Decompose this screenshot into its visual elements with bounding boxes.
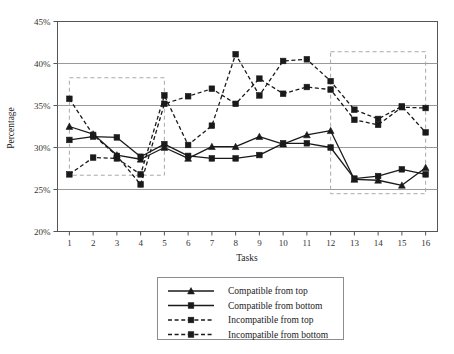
legend-item-label: Compatible from top [228,286,308,296]
x-tick-label-2: 2 [91,238,96,248]
data-point-8 [233,101,239,107]
data-point-11 [304,141,310,147]
data-point-3 [114,156,120,162]
data-point-13 [352,107,358,113]
x-tick-label-7: 7 [210,238,215,248]
data-point-7 [209,156,215,162]
x-tick-label-11: 11 [303,238,312,248]
data-point-4 [138,172,144,178]
chart-legend: Compatible from topCompatible from botto… [158,278,344,340]
data-point-15 [399,104,405,110]
x-axis-title: Tasks [236,253,258,263]
data-point-2 [90,155,96,161]
chart-figure: 20%25%30%35%40%45% 123456789101112131415… [0,0,454,354]
data-point-12 [328,78,334,84]
data-point-15 [399,167,405,173]
x-tick-label-10: 10 [279,238,289,248]
data-point-13 [352,176,358,182]
x-tick-label-3: 3 [115,238,120,248]
y-axis: 20%25%30%35%40%45% [34,17,58,237]
data-point-6 [185,153,191,159]
legend-swatch-marker [188,317,194,323]
legend-swatch-marker [188,303,194,309]
x-tick-label-9: 9 [257,238,262,248]
y-tick-label-45: 45% [34,17,51,27]
data-point-10 [280,141,286,147]
data-point-5 [162,93,168,99]
data-point-16 [423,105,429,111]
percentage-by-task-line-chart: 20%25%30%35%40%45% 123456789101112131415… [0,0,454,354]
x-tick-label-6: 6 [186,238,191,248]
x-tick-label-16: 16 [421,238,431,248]
data-point-5 [162,141,168,147]
data-point-16 [423,172,429,178]
x-tick-label-1: 1 [67,238,72,248]
y-axis-title: Percentage [6,107,16,149]
data-point-9 [257,152,263,158]
x-tick-label-4: 4 [138,238,143,248]
data-point-14 [375,173,381,179]
y-tick-label-35: 35% [34,101,51,111]
data-point-7 [209,123,215,129]
data-point-14 [375,116,381,122]
data-point-13 [352,117,358,123]
x-tick-label-12: 12 [326,238,335,248]
data-point-9 [257,93,263,99]
data-point-11 [304,84,310,90]
x-tick-label-15: 15 [397,238,407,248]
data-point-6 [185,93,191,99]
data-point-6 [185,142,191,148]
data-point-12 [328,145,334,151]
data-point-1 [67,96,73,102]
data-point-4 [138,182,144,188]
data-point-4 [138,154,144,160]
y-tick-label-25: 25% [34,185,51,195]
data-point-10 [280,58,286,64]
data-point-2 [90,132,96,138]
legend-swatch-marker [188,332,194,338]
x-tick-label-5: 5 [162,238,167,248]
legend-item-label: Incompatible from top [228,315,314,325]
x-tick-label-13: 13 [350,238,360,248]
x-tick-label-8: 8 [233,238,238,248]
data-point-1 [67,172,73,178]
data-point-9 [257,76,263,82]
legend-item-label: Incompatible from bottom [228,330,329,340]
data-point-11 [304,57,310,63]
data-point-3 [114,135,120,141]
y-tick-label-40: 40% [34,59,51,69]
y-tick-label-20: 20% [34,227,51,237]
x-tick-label-14: 14 [374,238,384,248]
x-axis: 12345678910111213141516 [67,232,431,248]
data-point-1 [67,137,73,143]
data-point-10 [280,91,286,97]
legend-item-label: Compatible from bottom [228,301,323,311]
data-point-8 [233,51,239,57]
data-point-12 [328,87,334,93]
y-tick-label-30: 30% [34,143,51,153]
data-point-16 [423,130,429,136]
data-point-8 [233,156,239,162]
data-point-14 [375,122,381,128]
data-point-7 [209,86,215,92]
